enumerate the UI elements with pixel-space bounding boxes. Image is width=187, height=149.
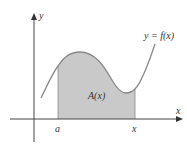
right-bound-label: x (131, 123, 137, 134)
area-label: A(x) (87, 90, 106, 102)
x-axis-label: x (175, 105, 181, 116)
shaded-area (58, 52, 135, 119)
y-axis-arrow-icon (31, 13, 37, 20)
y-axis-label: y (38, 10, 44, 21)
x-axis-arrow-icon (176, 116, 183, 122)
left-bound-label: a (55, 123, 60, 134)
curve-label: y = f(x) (143, 30, 175, 42)
area-function-diagram: y x y = f(x) A(x) a x (0, 0, 187, 149)
